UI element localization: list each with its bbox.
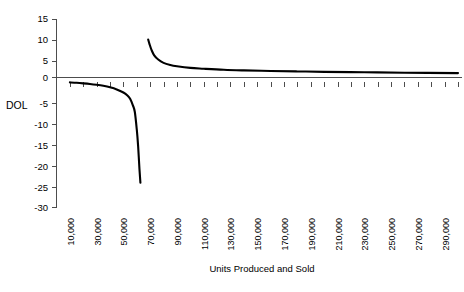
dol-negative-branch-line [70,82,141,182]
x-tick-label: 90,000 [173,218,183,246]
y-tick-label: -5 [40,98,48,109]
x-axis-tick-labels: 10,00030,00050,00070,00090,000110,000130… [66,218,451,251]
x-tick-label: 290,000 [441,218,451,251]
y-tick-label: 15 [37,13,48,24]
y-tick-label: -20 [34,161,48,172]
x-tick-label: 110,000 [200,218,210,250]
y-tick-label: -10 [34,119,48,130]
y-tick-label: 0 [43,72,48,83]
x-tick-label: 70,000 [146,218,156,246]
x-tick-label: 170,000 [280,218,290,251]
x-tick-label: 130,000 [226,218,236,251]
x-tick-label: 30,000 [93,218,103,246]
x-tick-label: 190,000 [307,218,317,251]
y-axis-tick-labels: 15 10 5 0 -5 -10 -15 -20 -25 -30 [34,13,48,213]
chart-canvas: 15 10 5 0 -5 -10 -15 -20 -25 -30 10,0003… [0,0,464,292]
dol-chart: 15 10 5 0 -5 -10 -15 -20 -25 -30 10,0003… [0,0,464,292]
y-tick-label: 5 [43,55,48,66]
x-tick-label: 10,000 [66,218,76,246]
x-tick-label: 230,000 [360,218,370,251]
x-axis-ticks [71,82,459,87]
y-axis-ticks [52,20,57,208]
y-tick-label: -15 [34,140,48,151]
x-tick-label: 150,000 [253,218,263,251]
x-tick-label: 50,000 [119,218,129,246]
x-tick-label: 250,000 [387,218,397,251]
y-axis-title: DOL [6,99,28,111]
y-tick-label: 10 [37,34,48,45]
y-tick-label: -30 [34,202,48,213]
y-tick-label: -25 [34,182,48,193]
dol-positive-branch-line [148,39,458,73]
x-axis-title: Units Produced and Sold [209,263,314,274]
x-tick-label: 210,000 [334,218,344,251]
x-tick-label: 270,000 [414,218,424,251]
